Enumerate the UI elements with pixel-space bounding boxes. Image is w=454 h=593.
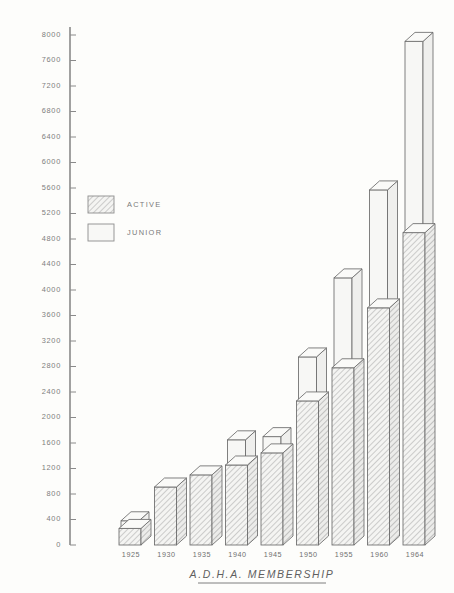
bar-1955-active-side [354, 359, 364, 545]
bar-1960-junior-front [370, 190, 388, 308]
bar-group-1945 [261, 428, 293, 545]
x-axis-label-1955: 1955 [335, 550, 353, 559]
y-axis-tick-label: 800 [47, 489, 61, 498]
y-axis-tick-label: 1600 [42, 438, 61, 447]
adha-membership-bar-chart: 0400800120016002000240028003200360040004… [0, 0, 454, 593]
bar-1935-active-front [190, 475, 212, 545]
bar-1930-active [155, 478, 187, 545]
y-axis-tick-label: 2400 [42, 387, 61, 396]
y-axis-tick-label: 2000 [42, 412, 61, 421]
x-axis-label-1950: 1950 [299, 550, 317, 559]
bar-1930-active-side [177, 478, 187, 545]
bar-1955-junior [334, 269, 362, 368]
y-axis-tick-label: 0 [56, 540, 61, 549]
bar-1940-active-side [248, 456, 258, 545]
bar-1950-active-side [319, 392, 329, 545]
bar-1950-active [297, 392, 329, 545]
legend-label-active: ACTIVE [127, 200, 162, 209]
bar-1925-active-front [119, 528, 141, 545]
bar-1955-junior-side [352, 269, 362, 368]
bar-1955-active-front [332, 368, 354, 545]
bar-1940-active-front [226, 465, 248, 545]
y-axis-tick-label: 5200 [42, 208, 61, 217]
y-axis-tick-label: 3200 [42, 336, 61, 345]
bar-1940-active [226, 456, 258, 545]
y-axis-tick-label: 3600 [42, 310, 61, 319]
chart-title: A.D.H.A. MEMBERSHIP [189, 568, 335, 580]
bar-group-1955 [332, 269, 364, 545]
y-axis-tick-label: 7200 [42, 81, 61, 90]
bar-1960-junior-side [388, 181, 398, 308]
y-axis-tick-label: 5600 [42, 183, 61, 192]
bar-1935-active [190, 466, 222, 545]
bar-1960-active [368, 299, 400, 545]
bar-group-1935 [190, 466, 222, 545]
bar-group-1940 [226, 431, 258, 545]
bar-1935-active-side [212, 466, 222, 545]
y-axis-tick-label: 1200 [42, 463, 61, 472]
chart-canvas: 0400800120016002000240028003200360040004… [0, 0, 454, 593]
bar-group-1950 [297, 348, 329, 545]
y-axis-tick-label: 4800 [42, 234, 61, 243]
bar-group-1930 [155, 478, 187, 545]
bar-1964-junior-side [423, 32, 433, 232]
legend-swatch-junior [88, 224, 114, 241]
legend-swatch-active [88, 196, 114, 213]
bar-1964-junior-front [405, 41, 423, 232]
bar-1964-junior [405, 32, 433, 232]
x-axis-label-1925: 1925 [122, 550, 140, 559]
bar-1945-active-front [261, 453, 283, 545]
y-axis-tick-label: 6800 [42, 106, 61, 115]
x-axis-labels: 192519301935194019451950195519601964 [122, 550, 424, 559]
bar-1950-active-front [297, 401, 319, 545]
bar-group-1960 [368, 181, 400, 545]
x-axis-label-1935: 1935 [193, 550, 211, 559]
bar-1930-active-front [155, 487, 177, 545]
bar-1955-active [332, 359, 364, 545]
bar-1960-junior [370, 181, 398, 308]
y-axis-tick-label: 6000 [42, 157, 61, 166]
bar-1964-active [403, 224, 435, 545]
y-axis-tick-label: 6400 [42, 132, 61, 141]
y-axis-tick-label: 7600 [42, 55, 61, 64]
bar-1960-active-front [368, 308, 390, 545]
bar-1964-active-front [403, 233, 425, 545]
y-axis-tick-label: 400 [47, 514, 61, 523]
bar-1945-active-side [283, 444, 293, 545]
bar-1964-active-side [425, 224, 435, 545]
x-axis-label-1964: 1964 [406, 550, 424, 559]
y-axis-tick-label: 4400 [42, 259, 61, 268]
x-axis-label-1930: 1930 [157, 550, 175, 559]
bar-1960-active-side [390, 299, 400, 545]
bar-group-1964 [403, 32, 435, 545]
legend-label-junior: JUNIOR [127, 228, 162, 237]
bar-1955-junior-front [334, 278, 352, 368]
x-axis-label-1945: 1945 [264, 550, 282, 559]
y-axis-tick-label: 2800 [42, 361, 61, 370]
bar-1945-active [261, 444, 293, 545]
x-axis-label-1940: 1940 [228, 550, 246, 559]
x-axis-label-1960: 1960 [370, 550, 388, 559]
y-axis-tick-label: 8000 [42, 30, 61, 39]
y-axis-tick-label: 4000 [42, 285, 61, 294]
